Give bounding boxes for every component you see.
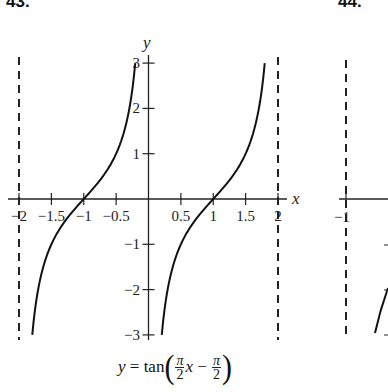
- x-tick-label: −0.5: [103, 208, 130, 224]
- x-axis-label: x: [291, 189, 300, 208]
- x-tick-label: 1.5: [236, 208, 255, 224]
- tangent-graph: −2−1.5−1−0.50.511.52 321−1−2−3 x y −1: [0, 0, 388, 392]
- y-tick-label: −1: [124, 236, 140, 252]
- x-tick-label: 0.5: [172, 208, 191, 224]
- y-axis-label: y: [141, 33, 151, 52]
- panel44-partial: −1: [334, 193, 388, 335]
- x-tick-labels: −2−1.5−1−0.50.511.52: [11, 208, 282, 224]
- equation-caption: y = tan ( π2 x − π2 ): [118, 352, 232, 382]
- y-tick-label: 1: [133, 146, 141, 162]
- y-tick-label: −3: [124, 327, 140, 343]
- panel44-tick-label: −1: [334, 209, 350, 225]
- axes: [8, 55, 388, 340]
- y-tick-label: 2: [133, 100, 141, 116]
- y-tick-label: −2: [124, 282, 140, 298]
- y-tick-label: 3: [133, 55, 141, 71]
- x-tick-label: −2: [11, 208, 27, 224]
- x-tick-label: 2: [274, 208, 282, 224]
- x-tick-label: −1.5: [38, 208, 65, 224]
- x-tick-label: −1: [76, 208, 92, 224]
- x-tick-label: 1: [210, 208, 218, 224]
